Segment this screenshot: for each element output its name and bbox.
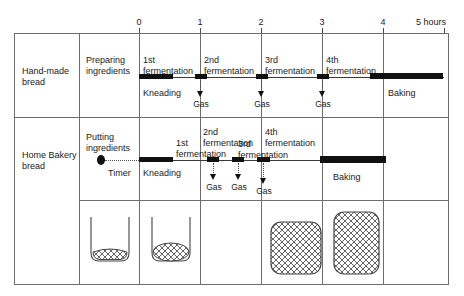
row1-kneading-label: Kneading (143, 88, 203, 99)
grid-line-row-divider-1 (14, 117, 449, 118)
axis-tick-label-0: 0 (132, 17, 146, 27)
row2-gas-bar-3 (257, 157, 270, 162)
row2-gas-label-1: Gas (202, 182, 226, 192)
row2-timer-dotted-line (105, 160, 139, 161)
row2-timer-marker (97, 155, 105, 165)
axis-tick-label-3: 3 (315, 17, 329, 27)
row1-baking-bar (370, 73, 443, 79)
row1-gas-label-1: Gas (189, 99, 213, 109)
row2-gas-arrow-line-3 (263, 163, 264, 179)
row2-timer-label: Timer (108, 168, 140, 179)
row1-gas-bar-3 (317, 74, 329, 79)
row-label-home-bakery-bread: Home Bakery bread (22, 150, 82, 172)
illustration-container-dough-small (152, 217, 190, 261)
row2-gas-arrow-head-2 (235, 174, 241, 180)
illustration-loaf-risen (271, 222, 321, 274)
row-label-hand-made-bread: Hand-made bread (22, 66, 80, 88)
row2-putting-ingredients-label: Putting ingredients (86, 132, 142, 154)
row2-gas-label-3: Gas (252, 186, 276, 196)
row1-gas-arrow-head-2 (258, 91, 264, 97)
row2-gas-label-2: Gas (227, 182, 251, 192)
row1-gas-arrow-head-3 (319, 91, 325, 97)
illustration-row (0, 200, 464, 296)
axis-tick-label-1: 1 (193, 17, 207, 27)
row2-baking-bar (320, 156, 386, 163)
bread-process-timeline-chart: 0 1 2 3 4 5 hours Hand-made bread Prepar… (0, 0, 464, 296)
row2-kneading-bar (139, 157, 173, 162)
row2-gas-bar-2 (232, 157, 244, 162)
row2-gas-arrow-head-3 (260, 178, 266, 184)
row2-gas-arrow-head-1 (210, 174, 216, 180)
axis-tick-label-2: 2 (254, 17, 268, 27)
row1-gas-bar-2 (256, 74, 268, 79)
row2-baking-label: Baking (333, 172, 379, 183)
row2-4th-fermentation-label: 4th fermentation (265, 127, 327, 149)
axis-tick-label-5-hours: 5 hours (416, 17, 464, 27)
row1-baking-label: Baking (388, 88, 434, 99)
row1-gas-label-3: Gas (311, 99, 335, 109)
illustration-loaf-baked (334, 212, 379, 274)
row2-gas-bar-1 (207, 157, 219, 162)
row2-kneading-label: Kneading (143, 168, 203, 179)
row1-gas-bar-1 (195, 74, 207, 79)
row1-gas-label-2: Gas (250, 99, 274, 109)
row1-kneading-bar (139, 74, 173, 79)
row1-preparing-ingredients-label: Preparing ingredients (86, 55, 142, 77)
axis-tick-label-4: 4 (376, 17, 390, 27)
row1-gas-arrow-head-1 (197, 91, 203, 97)
illustration-container-empty (91, 217, 129, 261)
